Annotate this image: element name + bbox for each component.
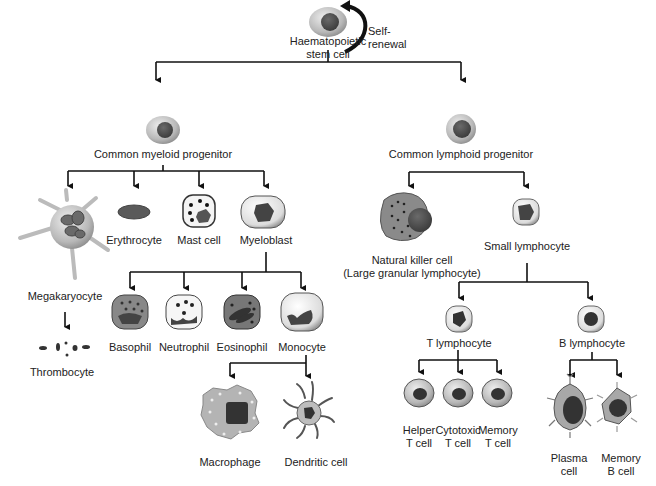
basophil-icon: [112, 295, 148, 329]
cytotoxic-t-cell-label: Cytotoxic T cell: [435, 424, 480, 450]
thrombocyte-label: Thrombocyte: [30, 366, 94, 379]
b-lymphocyte-label: B lymphocyte: [559, 337, 625, 350]
erythrocyte-label: Erythrocyte: [106, 234, 162, 247]
helper-t-cell-label: Helper T cell: [403, 424, 435, 450]
stem-cell-label: Haematopoietic stem cell: [290, 35, 366, 61]
basophil-label: Basophil: [109, 341, 151, 354]
eosinophil-icon: [224, 295, 260, 329]
lymphoid-progenitor-icon: [446, 114, 476, 144]
eosinophil-label: Eosinophil: [217, 341, 268, 354]
t-lymphocyte-label: T lymphocyte: [426, 337, 491, 350]
myeloblast-icon: [241, 196, 285, 228]
stem-cell-icon: [309, 7, 347, 37]
thrombocyte-icon: [39, 342, 90, 357]
helper-t-cell-icon: [404, 379, 434, 407]
t-lymphocyte-icon: [446, 306, 472, 332]
macrophage-label: Macrophage: [199, 456, 260, 469]
memory-t-cell-icon: [482, 379, 512, 407]
plasma-cell-icon: [547, 374, 593, 438]
myeloid-progenitor-icon: [146, 116, 180, 144]
small-lymphocyte-label: Small lymphocyte: [484, 240, 570, 253]
dendritic-cell-label: Dendritic cell: [285, 456, 348, 469]
monocyte-label: Monocyte: [278, 341, 326, 354]
nk-cell-label: Natural killer cell (Large granular lymp…: [343, 254, 481, 280]
monocyte-icon: [281, 293, 323, 331]
neutrophil-label: Neutrophil: [159, 341, 209, 354]
memory-b-cell-label: Memory B cell: [601, 452, 641, 478]
b-lymphocyte-icon: [578, 306, 604, 332]
cytotoxic-t-cell-icon: [443, 379, 473, 407]
self-renewal-label: Self- renewal: [368, 25, 407, 51]
neutrophil-icon: [166, 295, 202, 329]
macrophage-icon: [201, 385, 259, 439]
natural-killer-cell-icon: [380, 193, 432, 241]
plasma-cell-label: Plasma cell: [551, 452, 588, 478]
mast-cell-label: Mast cell: [177, 234, 220, 247]
small-lymphocyte-icon: [513, 199, 539, 225]
erythrocyte-icon: [118, 205, 150, 219]
myeloid-progenitor-label: Common myeloid progenitor: [94, 148, 232, 161]
megakaryocyte-label: Megakaryocyte: [28, 290, 103, 303]
memory-b-cell-icon: [597, 382, 637, 432]
memory-t-cell-label: Memory T cell: [478, 424, 518, 450]
myeloblast-label: Myeloblast: [240, 234, 293, 247]
lymphoid-progenitor-label: Common lymphoid progenitor: [389, 148, 533, 161]
mast-cell-icon: [183, 195, 215, 227]
